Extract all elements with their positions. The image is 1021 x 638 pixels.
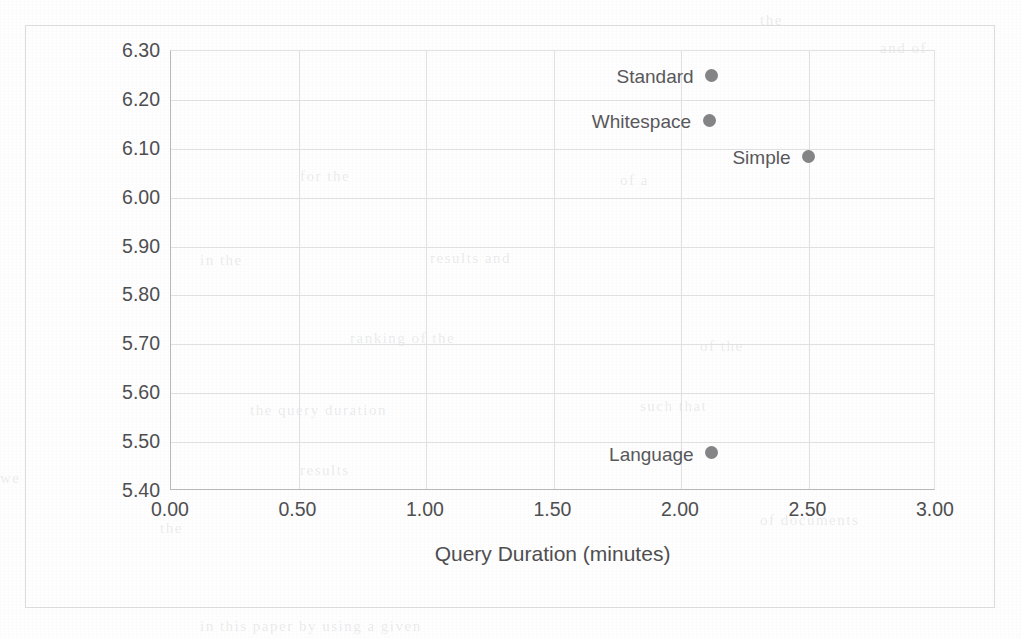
gridline-horizontal [171,198,934,199]
gridline-horizontal [171,344,934,345]
ghost-text-line: in this paper by using a given [200,618,422,635]
gridline-horizontal [171,100,934,101]
gridline-horizontal [171,393,934,394]
x-axis-tick-labels: 0.000.501.001.502.002.503.00 [170,498,935,528]
gridline-horizontal [171,247,934,248]
data-point-marker [705,446,718,459]
y-tick-label: 6.00 [0,185,160,208]
scanned-page: theand offor theof ain theresults andran… [0,0,1021,638]
y-tick-label: 5.90 [0,234,160,257]
x-tick-label: 0.50 [238,498,358,521]
data-point-marker [703,114,716,127]
x-axis-title: Query Duration (minutes) [170,542,935,566]
x-tick-label: 2.00 [620,498,740,521]
gridline-horizontal [171,149,934,150]
data-point-marker [705,69,718,82]
plot-area: StandardWhitespaceSimpleLanguage [170,50,935,490]
y-tick-label: 5.60 [0,381,160,404]
data-point-label: Simple [732,147,790,169]
y-tick-label: 6.30 [0,39,160,62]
y-tick-label: 6.20 [0,87,160,110]
x-tick-label: 1.00 [365,498,485,521]
y-tick-label: 6.10 [0,136,160,159]
data-point-label: Standard [616,66,693,88]
y-axis-tick-labels: 5.405.505.605.705.805.906.006.106.206.30 [0,50,160,490]
gridline-horizontal [171,295,934,296]
gridline-vertical [426,51,427,489]
data-point-marker [802,150,815,163]
x-tick-label: 2.50 [748,498,868,521]
gridline-vertical [809,51,810,489]
x-tick-label: 0.00 [110,498,230,521]
y-tick-label: 5.50 [0,430,160,453]
y-tick-label: 5.70 [0,332,160,355]
y-tick-label: 5.80 [0,283,160,306]
gridline-vertical [299,51,300,489]
gridline-vertical [554,51,555,489]
data-point-label: Whitespace [592,111,691,133]
x-tick-label: 3.00 [875,498,995,521]
gridline-horizontal [171,442,934,443]
data-point-label: Language [609,444,694,466]
x-tick-label: 1.50 [493,498,613,521]
